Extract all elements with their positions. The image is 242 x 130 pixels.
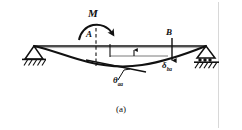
theta-subscript: aa bbox=[118, 81, 123, 87]
moment-label: M bbox=[88, 8, 98, 19]
applied-moment-arc-arrow bbox=[79, 25, 112, 40]
right-support-hatching bbox=[195, 63, 217, 69]
point-b-label: B bbox=[166, 28, 172, 37]
deflection-label: δba bbox=[162, 61, 172, 72]
roller-wheels bbox=[198, 58, 211, 61]
left-support-hatching bbox=[24, 60, 46, 66]
figure-container: M A B δba θaa (a) bbox=[0, 0, 242, 130]
figure-caption: (a) bbox=[0, 104, 242, 114]
rotation-label: θaa bbox=[113, 76, 123, 87]
point-a-label: A bbox=[86, 30, 92, 39]
delta-subscript: ba bbox=[167, 66, 172, 72]
